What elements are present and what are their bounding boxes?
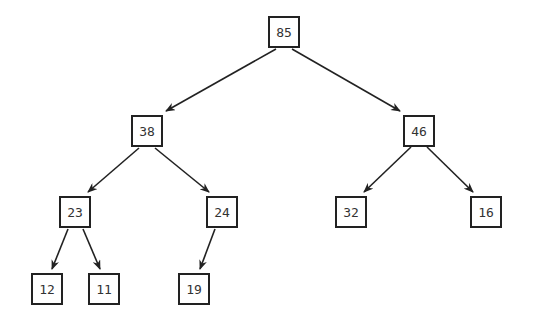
tree-node: 38 xyxy=(131,115,163,147)
edge-arrow xyxy=(427,147,473,192)
tree-node: 24 xyxy=(206,196,238,228)
edge-arrow xyxy=(200,229,215,269)
tree-node-leaf: 11 xyxy=(88,273,120,305)
edge-arrow xyxy=(52,229,68,269)
node-label: 24 xyxy=(214,205,230,220)
node-label: 16 xyxy=(478,205,494,220)
tree-node: 16 xyxy=(470,196,502,228)
tree-node: 23 xyxy=(59,196,91,228)
node-label: 19 xyxy=(186,282,202,297)
tree-node-leaf: 12 xyxy=(31,273,63,305)
edge-arrow xyxy=(83,229,100,269)
edge-arrow xyxy=(364,147,411,192)
edge-arrow xyxy=(166,49,276,111)
node-label: 23 xyxy=(67,205,83,220)
edge-arrow xyxy=(292,49,400,111)
node-label: 46 xyxy=(411,124,427,139)
node-label: 32 xyxy=(343,205,359,220)
edge-layer xyxy=(0,0,534,326)
node-label: 85 xyxy=(276,25,292,40)
tree-diagram: 85 38 46 23 24 32 16 12 11 19 xyxy=(0,0,534,326)
tree-node: 46 xyxy=(403,115,435,147)
edge-arrow xyxy=(88,148,139,192)
edge-arrow xyxy=(155,148,209,192)
tree-node: 32 xyxy=(335,196,367,228)
node-label: 11 xyxy=(96,282,112,297)
tree-node-root: 85 xyxy=(268,16,300,48)
node-label: 38 xyxy=(139,124,155,139)
tree-node-leaf: 19 xyxy=(178,273,210,305)
node-label: 12 xyxy=(39,282,55,297)
